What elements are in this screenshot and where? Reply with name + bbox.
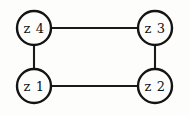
node-z1-label: z 1 xyxy=(23,79,44,94)
graph-canvas: z 4 z 3 z 1 z 2 xyxy=(0,0,190,116)
node-z3[interactable]: z 3 xyxy=(138,11,172,45)
node-z4-label: z 4 xyxy=(23,21,44,36)
node-z2-label: z 2 xyxy=(144,79,165,94)
node-z1[interactable]: z 1 xyxy=(17,69,51,103)
node-z3-label: z 3 xyxy=(144,21,165,36)
edge-group xyxy=(34,28,155,86)
node-group: z 4 z 3 z 1 z 2 xyxy=(17,11,172,103)
node-z2[interactable]: z 2 xyxy=(138,69,172,103)
node-z4[interactable]: z 4 xyxy=(17,11,51,45)
graph-figure: z 4 z 3 z 1 z 2 xyxy=(0,0,190,116)
